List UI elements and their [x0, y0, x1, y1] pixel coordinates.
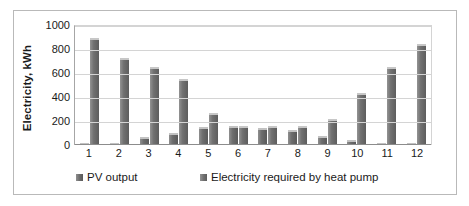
x-axis-tick-labels: 123456789101112: [74, 147, 432, 165]
bar: [120, 58, 129, 145]
bar-group: [134, 26, 164, 145]
bar-group: [372, 26, 402, 145]
plot-area: [74, 25, 432, 145]
bar: [328, 119, 337, 145]
chart-figure: Electricity, kWh 02004006008001000 12345…: [0, 0, 469, 206]
x-axis-tick-label: 4: [163, 147, 193, 165]
bar-group: [75, 26, 105, 145]
bar-group: [194, 26, 224, 145]
bar-group: [283, 26, 313, 145]
legend-entry: Electricity required by heat pump: [200, 171, 378, 183]
bar-group: [105, 26, 135, 145]
y-axis-tick-labels: 02004006008001000: [34, 19, 70, 145]
bar: [298, 126, 307, 145]
legend-label: Electricity required by heat pump: [211, 171, 378, 183]
gridline: [75, 50, 431, 51]
bar: [239, 126, 248, 145]
legend-entry: PV output: [76, 171, 138, 183]
x-axis-tick-label: 7: [253, 147, 283, 165]
bar-group: [312, 26, 342, 145]
x-axis-tick-label: 10: [342, 147, 372, 165]
bar-group: [164, 26, 194, 145]
bar: [357, 93, 366, 145]
y-axis-tick-label: 400: [34, 91, 70, 103]
x-axis-baseline: [75, 144, 431, 145]
y-axis-tick-label: 800: [34, 43, 70, 55]
gridline: [75, 74, 431, 75]
bar-group: [223, 26, 253, 145]
x-axis-tick-label: 11: [372, 147, 402, 165]
bar: [209, 113, 218, 145]
bar-group: [401, 26, 431, 145]
x-axis-tick-label: 5: [193, 147, 223, 165]
x-axis-tick-label: 12: [402, 147, 432, 165]
legend-swatch-icon: [200, 174, 207, 181]
legend-label: PV output: [87, 171, 138, 183]
y-axis-tick-label: 0: [34, 139, 70, 151]
y-axis-title: Electricity, kWh: [21, 18, 33, 158]
x-axis-tick-label: 2: [104, 147, 134, 165]
bar: [258, 128, 267, 145]
y-axis-tick-label: 1000: [34, 19, 70, 31]
y-axis-tick-label: 200: [34, 115, 70, 127]
bar: [90, 38, 99, 145]
bar-group: [253, 26, 283, 145]
x-axis-tick-label: 8: [283, 147, 313, 165]
bar-group: [342, 26, 372, 145]
gridline: [75, 26, 431, 27]
bar: [288, 130, 297, 145]
gridline: [75, 98, 431, 99]
x-axis-tick-label: 3: [134, 147, 164, 165]
bar: [387, 67, 396, 145]
bar: [150, 67, 159, 145]
bar: [417, 44, 426, 145]
bar: [179, 79, 188, 145]
bar: [199, 127, 208, 145]
x-axis-tick-label: 9: [313, 147, 343, 165]
chart-legend: PV outputElectricity required by heat pu…: [14, 171, 456, 189]
bars-layer: [75, 26, 431, 145]
x-axis-tick-label: 1: [74, 147, 104, 165]
bar: [229, 126, 238, 145]
gridline: [75, 122, 431, 123]
bar: [268, 126, 277, 145]
y-axis-tick-label: 600: [34, 67, 70, 79]
legend-swatch-icon: [76, 174, 83, 181]
x-axis-tick-label: 6: [223, 147, 253, 165]
